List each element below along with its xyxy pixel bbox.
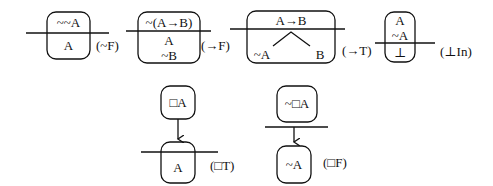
branch-right-text: B bbox=[316, 47, 325, 62]
rule-bottom-In: A ~A ⊥ (⊥In) bbox=[375, 12, 472, 62]
conclusion-text: ⊥ bbox=[394, 45, 406, 60]
rule-label: (□F) bbox=[323, 155, 347, 170]
premise-text: A bbox=[395, 13, 405, 28]
rule-arrow-F: ~(A→B) A ~B (→F) bbox=[126, 12, 230, 63]
world-top-text: □A bbox=[169, 95, 187, 110]
world-top-text: ~□A bbox=[285, 96, 310, 111]
branch-left-text: ~A bbox=[254, 47, 271, 62]
rule-box-F: ~□A ~A (□F) bbox=[265, 86, 347, 183]
premise-text: ~~A bbox=[57, 15, 81, 30]
branch-lines bbox=[273, 32, 310, 46]
rule-label: (⊥In) bbox=[440, 44, 472, 59]
rule-arrow-T: A→B ~A B (→T) bbox=[230, 11, 372, 63]
conclusion-text: A bbox=[64, 38, 74, 53]
world-bottom-text: A bbox=[173, 160, 183, 175]
rule-label: (→T) bbox=[342, 43, 372, 58]
rule-label: (→F) bbox=[201, 38, 230, 53]
rule-label: (~F) bbox=[96, 38, 119, 53]
premise-text: A→B bbox=[275, 13, 306, 28]
premise-text: ~A bbox=[392, 28, 409, 43]
conclusion-text: A bbox=[164, 33, 174, 48]
conclusion-text: ~B bbox=[161, 48, 177, 63]
tableau-rules-diagram: ~~A A (~F) ~(A→B) A ~B (→F) A→B ~A B (→T… bbox=[0, 0, 493, 186]
rule-label: (□T) bbox=[210, 158, 234, 173]
rule-neg-F: ~~A A (~F) bbox=[26, 12, 119, 59]
world-bottom-text: ~A bbox=[286, 157, 303, 172]
premise-text: ~(A→B) bbox=[146, 15, 193, 30]
rule-box-T: □A A (□T) bbox=[141, 86, 234, 183]
